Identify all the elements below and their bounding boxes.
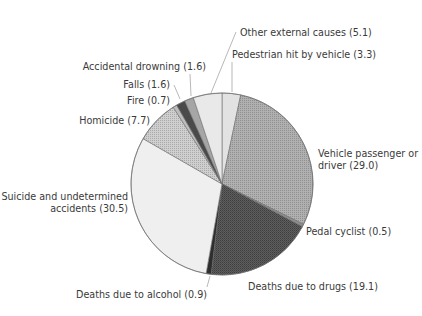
slice-label: Pedestrian hit by vehicle (3.3) [232,49,376,60]
slice-label: Fire (0.7) [127,95,170,106]
slice-label: accidents (30.5) [50,203,128,214]
slice-label: Accidental drowning (1.6) [83,61,206,72]
leader-line [207,276,210,287]
pie-slices [131,93,313,275]
leader-line [190,74,191,96]
slice-label: Homicide (7.7) [79,115,150,126]
slice-label: Deaths due to alcohol (0.9) [76,289,207,300]
leader-line [174,85,180,99]
slice-label: Falls (1.6) [123,79,170,90]
slice-label: Suicide and undetermined [1,191,128,202]
slice-label: Deaths due to drugs (19.1) [248,281,378,292]
slice-label: driver (29.0) [318,160,378,171]
slice-label: Vehicle passenger or [318,148,418,159]
slice-label: Other external causes (5.1) [240,27,372,38]
pie-chart: Pedestrian hit by vehicle (3.3)Vehicle p… [0,0,422,316]
slice-label: Pedal cyclist (0.5) [306,226,391,237]
